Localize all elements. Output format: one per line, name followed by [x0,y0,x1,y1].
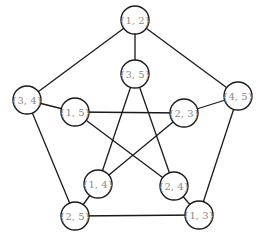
node-layer: {1, 2}{3, 4}{4, 5}{2, 5}{1, 3}{3, 5}{1, … [11,6,254,230]
edge-n45-n13 [199,96,238,215]
graph-node: {1, 3} [183,201,215,229]
node-label: {2, 3} [168,108,200,119]
edge-n25-n13 [75,215,199,216]
edge-layer [27,20,238,216]
edge-n35-n24 [135,74,174,186]
node-label: {2, 4} [158,181,190,192]
edge-n12-n34 [27,20,135,100]
node-label: {4, 5} [222,91,254,102]
node-label: {1, 4} [82,179,114,190]
node-label: {3, 5} [119,69,151,80]
node-label: {1, 2} [119,15,151,26]
graph-node: {1, 5} [59,98,91,126]
graph-node: {1, 2} [119,6,151,34]
graph-node: {2, 4} [158,172,190,200]
graph-node: {4, 5} [222,82,254,110]
node-label: {3, 4} [11,95,43,106]
node-label: {2, 5} [59,211,91,222]
graph-node: {3, 5} [119,60,151,88]
graph-node: {2, 5} [59,202,91,230]
node-label: {1, 3} [183,210,215,221]
edge-n35-n14 [98,74,135,184]
edge-n12-n45 [135,20,238,96]
node-label: {1, 5} [59,107,91,118]
graph-node: {3, 4} [11,86,43,114]
petersen-graph-diagram: {1, 2}{3, 4}{4, 5}{2, 5}{1, 3}{3, 5}{1, … [0,0,264,241]
